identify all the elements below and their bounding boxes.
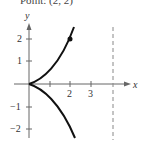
- y-tick-1: 1: [17, 55, 22, 66]
- y-tick-neg2: −2: [10, 123, 21, 134]
- y-axis-label: y: [24, 10, 30, 21]
- x-tick-3: 3: [88, 88, 93, 99]
- x-tick-2: 2: [67, 88, 72, 99]
- y-axis: 2 1 −1 −2 y: [10, 10, 32, 138]
- upper-branch-curve: [29, 27, 74, 84]
- y-tick-neg1: −1: [10, 101, 21, 112]
- point-marker: [68, 37, 73, 42]
- chart-plot: 2 3 x 2 1 −1 −2 y: [0, 0, 144, 155]
- x-axis-label: x: [132, 79, 138, 90]
- y-tick-2: 2: [17, 33, 22, 44]
